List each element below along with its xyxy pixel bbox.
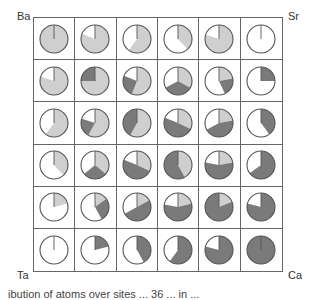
pie-glyph-icon [246,66,276,96]
pie-glyph-icon [39,192,69,222]
grid-cell [75,229,116,271]
pie-glyph-icon [39,235,69,265]
pie-glyph-icon [246,192,276,222]
pie-glyph-icon [204,108,234,138]
pie-glyph-icon [204,192,234,222]
grid-cell [241,229,282,271]
grid-cell [241,60,282,102]
pie-glyph-icon [246,108,276,138]
pie-glyph-icon [163,150,193,180]
grid-cell [117,145,158,187]
grid-cell [75,187,116,229]
pie-glyph-icon [80,150,110,180]
pie-glyph-icon [80,108,110,138]
grid-cell [75,145,116,187]
pie-glyph-icon [163,108,193,138]
pie-glyph-icon [39,108,69,138]
pie-glyph-icon [204,24,234,54]
pie-grid [33,17,283,272]
pie-glyph-icon [80,66,110,96]
grid-cell [158,18,199,60]
grid-cell [75,18,116,60]
grid-cell [34,187,75,229]
pie-glyph-icon [122,150,152,180]
grid-cell [117,18,158,60]
grid-cell [158,145,199,187]
pie-glyph-icon [80,24,110,54]
corner-label-bottom-right: Ca [288,270,302,281]
grid-cell [34,18,75,60]
grid-cell [199,145,240,187]
grid-cell [241,187,282,229]
pie-glyph-icon [39,66,69,96]
grid-cell [34,60,75,102]
grid-cell [199,229,240,271]
figure-caption: ibution of atoms over sites ... 36 ... i… [8,288,199,300]
grid-cell [241,18,282,60]
pie-glyph-icon [163,24,193,54]
pie-glyph-icon [122,66,152,96]
pie-glyph-icon [122,192,152,222]
grid-cell [75,60,116,102]
pie-glyph-icon [80,192,110,222]
grid-cell [117,187,158,229]
grid-cell [75,102,116,144]
pie-glyph-icon [122,235,152,265]
pie-glyph-icon [80,235,110,265]
corner-label-bottom-left: Ta [17,270,29,281]
grid-cell [199,187,240,229]
grid-cell [241,102,282,144]
pie-glyph-icon [39,150,69,180]
pie-glyph-icon [163,192,193,222]
pie-glyph-icon [246,235,276,265]
pie-glyph-icon [204,235,234,265]
grid-cell [34,229,75,271]
pie-glyph-icon [122,108,152,138]
pie-glyph-icon [39,24,69,54]
pie-glyph-icon [204,66,234,96]
grid-cell [34,102,75,144]
corner-label-top-left: Ba [17,11,30,22]
grid-cell [199,60,240,102]
grid-cell [117,229,158,271]
pie-glyph-icon [163,66,193,96]
grid-cell [199,102,240,144]
grid-cell [158,102,199,144]
grid-cell [241,145,282,187]
grid-cell [158,60,199,102]
pie-glyph-icon [163,235,193,265]
grid-cell [117,102,158,144]
grid-cell [158,229,199,271]
pie-glyph-icon [246,24,276,54]
grid-cell [158,187,199,229]
grid-cell [117,60,158,102]
grid-cell [34,145,75,187]
pie-glyph-icon [246,150,276,180]
pie-glyph-icon [204,150,234,180]
grid-cell [199,18,240,60]
pie-glyph-icon [122,24,152,54]
corner-label-top-right: Sr [288,11,299,22]
